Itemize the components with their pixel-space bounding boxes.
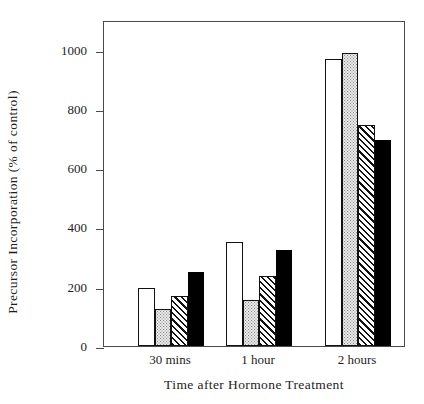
bar-30-mins-series-1: [138, 288, 155, 346]
bar-2-hours-series-2: [342, 53, 359, 346]
y-axis-tick: [96, 170, 104, 171]
y-axis-tick-label: 400: [0, 220, 87, 236]
y-axis-tick-label: 800: [0, 102, 87, 118]
bar-30-mins-series-3: [171, 296, 188, 346]
bar-1-hour-series-3: [259, 276, 276, 346]
plot-area: [103, 21, 405, 347]
bar-2-hours-series-3: [358, 125, 375, 346]
x-axis-title: Time after Hormone Treatment: [103, 377, 405, 393]
y-axis-tick-label: 1000: [0, 43, 87, 59]
bar-1-hour-series-4: [276, 250, 293, 346]
bar-1-hour-series-1: [226, 242, 243, 346]
y-axis-tick: [96, 289, 104, 290]
y-axis-tick-label: 200: [0, 280, 87, 296]
bar-30-mins-series-2: [155, 309, 172, 346]
y-axis-tick: [96, 111, 104, 112]
y-axis-tick: [96, 229, 104, 230]
y-axis-tick-label: 600: [0, 161, 87, 177]
bar-1-hour-series-2: [243, 300, 260, 346]
bar-2-hours-series-4: [375, 140, 392, 346]
x-axis-tick-label: 2 hours: [297, 352, 417, 368]
bar-30-mins-series-4: [188, 272, 205, 346]
plot-inner: [104, 22, 404, 346]
bar-2-hours-series-1: [325, 59, 342, 346]
y-axis-tick: [96, 52, 104, 53]
y-axis-tick: [96, 348, 104, 349]
bar-chart-figure: Precursor Incorporation (% of control) T…: [0, 0, 424, 404]
y-axis-tick-label: 0: [0, 339, 87, 355]
